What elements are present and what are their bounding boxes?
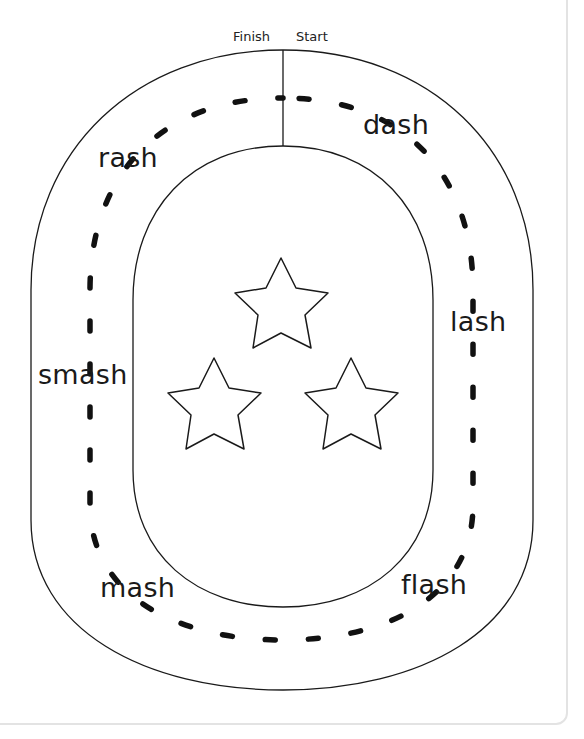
star-outline-icon <box>168 358 261 449</box>
track-inner-edge <box>133 146 433 607</box>
track-center-dashes <box>90 98 473 640</box>
word-rash: rash <box>98 144 158 171</box>
star-outline-icon <box>305 358 398 449</box>
word-dash: dash <box>363 111 429 138</box>
word-mash: mash <box>100 574 175 601</box>
finish-label: Finish <box>233 29 270 44</box>
word-flash: flash <box>401 571 467 598</box>
word-smash: smash <box>38 361 128 388</box>
star-outline-icon <box>235 258 328 348</box>
word-lash: lash <box>450 308 506 335</box>
start-label: Start <box>296 29 328 44</box>
